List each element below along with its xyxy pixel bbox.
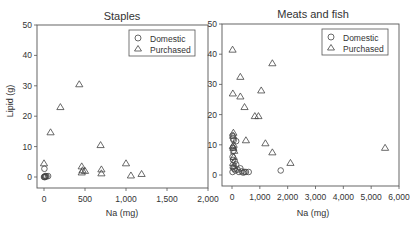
legend-purchased: Purchased bbox=[150, 45, 191, 55]
purchased-point bbox=[138, 170, 145, 176]
y-tick-label: 40 bbox=[23, 50, 33, 60]
x-tick-label: 6,000 bbox=[388, 192, 410, 202]
purchased-point bbox=[229, 90, 236, 96]
y-tick-label: 40 bbox=[208, 49, 218, 59]
legend-domestic: Domestic bbox=[343, 33, 379, 43]
x-tick-label: 500 bbox=[78, 194, 92, 204]
x-tick-label: 4,000 bbox=[333, 192, 355, 202]
x-tick-label: 2,000 bbox=[197, 194, 219, 204]
x-tick-label: 2,000 bbox=[277, 192, 299, 202]
meats-title: Meats and fish bbox=[277, 8, 349, 20]
meats-x-label: Na (mg) bbox=[297, 208, 330, 218]
purchased-point bbox=[97, 142, 104, 148]
meats-legend: Domestic Purchased bbox=[322, 29, 388, 55]
y-tick-label: 10 bbox=[208, 140, 218, 150]
purchased-point bbox=[76, 81, 83, 87]
purchased-point bbox=[251, 113, 258, 119]
meats-points bbox=[229, 46, 389, 175]
purchased-point bbox=[47, 129, 54, 135]
purchased-point bbox=[98, 166, 105, 172]
purchased-point bbox=[237, 73, 244, 79]
purchased-point bbox=[269, 60, 276, 66]
purchased-point bbox=[242, 137, 249, 143]
x-tick-label: 1,000 bbox=[249, 192, 271, 202]
purchased-point bbox=[229, 46, 236, 52]
purchased-point bbox=[57, 104, 64, 110]
x-tick-label: 0 bbox=[42, 194, 47, 204]
meats-fish-panel: Meats and fish Na (mg) 0102030405001,000… bbox=[208, 8, 410, 218]
x-tick-label: 3,000 bbox=[305, 192, 327, 202]
staples-panel: Staples Lipid (g) Na (mg) 01020304050050… bbox=[5, 10, 219, 218]
staples-points bbox=[40, 81, 145, 180]
purchased-point bbox=[237, 93, 244, 99]
domestic-point bbox=[42, 166, 48, 172]
legend-domestic: Domestic bbox=[150, 34, 186, 44]
x-tick-label: 0 bbox=[230, 192, 235, 202]
y-tick-label: 20 bbox=[23, 111, 33, 121]
staples-y-label: Lipid (g) bbox=[5, 85, 15, 118]
y-tick-label: 50 bbox=[23, 20, 33, 30]
y-tick-label: 0 bbox=[27, 172, 32, 182]
purchased-point bbox=[287, 159, 294, 165]
purchased-point bbox=[381, 144, 388, 150]
staples-x-label: Na (mg) bbox=[106, 208, 139, 218]
y-tick-label: 30 bbox=[208, 79, 218, 89]
y-tick-label: 30 bbox=[23, 81, 33, 91]
staples-title: Staples bbox=[104, 10, 141, 22]
figure: Staples Lipid (g) Na (mg) 01020304050050… bbox=[0, 0, 414, 227]
purchased-point bbox=[122, 160, 129, 166]
x-tick-label: 1,500 bbox=[156, 194, 178, 204]
x-tick-label: 5,000 bbox=[361, 192, 383, 202]
purchased-point bbox=[40, 160, 47, 166]
domestic-point bbox=[278, 168, 284, 174]
purchased-point bbox=[255, 113, 262, 119]
purchased-point bbox=[241, 104, 248, 110]
y-tick-label: 10 bbox=[23, 142, 33, 152]
purchased-point bbox=[127, 172, 134, 178]
purchased-point bbox=[262, 140, 269, 146]
y-tick-label: 20 bbox=[208, 110, 218, 120]
purchased-point bbox=[269, 149, 276, 155]
purchased-point bbox=[258, 87, 265, 93]
staples-legend: Domestic Purchased bbox=[129, 30, 195, 56]
legend-purchased: Purchased bbox=[343, 44, 384, 54]
x-tick-label: 1,000 bbox=[115, 194, 137, 204]
y-tick-label: 0 bbox=[212, 170, 217, 180]
y-tick-label: 50 bbox=[208, 19, 218, 29]
